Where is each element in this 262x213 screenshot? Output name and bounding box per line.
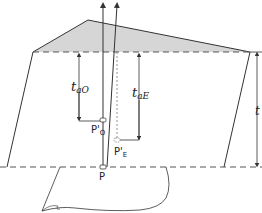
point-p (100, 165, 106, 169)
point-pe (114, 138, 120, 142)
label-p: P (99, 171, 105, 182)
shaded-triangle (33, 20, 250, 52)
left-edge (7, 52, 33, 167)
label-t: t (255, 104, 260, 118)
curled-sheet (42, 167, 169, 211)
right-edge (224, 52, 250, 167)
diagram-canvas: taO taE t P'O P'E P (0, 0, 262, 213)
label-po: P'O (91, 124, 106, 137)
label-t-ao: taO (71, 79, 90, 95)
point-po (100, 118, 106, 122)
label-t-ae: taE (132, 85, 150, 101)
label-pe: P'E (114, 146, 127, 159)
